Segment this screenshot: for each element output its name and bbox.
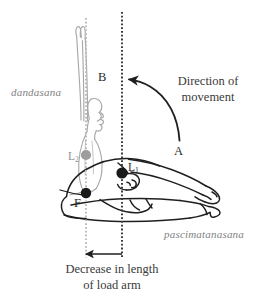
biomechanics-figure: dandasana pascimatanasana B A L2 L1 F Di… xyxy=(0,0,264,298)
caption-line-1: Decrease in length xyxy=(22,262,202,278)
label-l2-letter: L xyxy=(68,150,75,162)
fulcrum-dot xyxy=(81,188,91,198)
load-far-dot xyxy=(81,150,91,160)
caption-line-2: of load arm xyxy=(22,278,202,294)
figure-illustration xyxy=(0,0,264,298)
label-l1-letter: L xyxy=(128,161,135,173)
label-pascimatanasana: pascimatanasana xyxy=(164,228,244,240)
label-l1-subscript: 1 xyxy=(135,166,139,175)
load-near-dot xyxy=(116,167,127,178)
label-point-f: F xyxy=(74,196,81,210)
label-l2-subscript: 2 xyxy=(75,155,79,164)
direction-line-1: Direction of xyxy=(158,74,258,90)
label-point-b: B xyxy=(98,70,106,84)
direction-line-2: movement xyxy=(158,90,258,106)
label-dandasana: dandasana xyxy=(11,86,61,98)
direction-of-movement-annotation: Direction of movement xyxy=(158,74,258,105)
label-point-l2: L2 xyxy=(68,150,79,164)
label-point-l1: L1 xyxy=(128,161,139,175)
load-arm-caption: Decrease in length of load arm xyxy=(22,262,202,293)
label-point-a: A xyxy=(174,144,183,158)
